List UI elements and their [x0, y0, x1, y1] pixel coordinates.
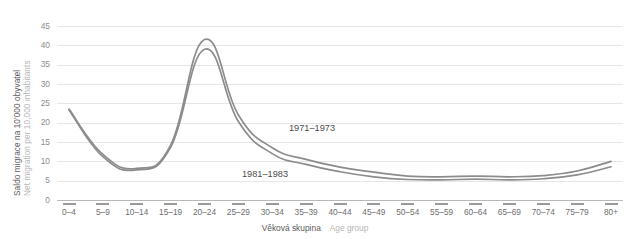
x-tick-dash — [96, 203, 109, 205]
y-tick-label: 5 — [24, 176, 50, 184]
line-chart: Saldo migrace na 10'000 obyvatel Net mig… — [0, 0, 630, 239]
x-tick-dash — [503, 203, 516, 205]
y-axis-tick-labels: 051015202530354045 — [24, 0, 50, 239]
x-tick-dash — [266, 203, 279, 205]
x-axis-title-cz: Věková skupina — [262, 223, 321, 233]
x-tick-dash — [367, 203, 380, 205]
x-tick-dash — [537, 203, 550, 205]
x-tick-dash — [198, 203, 211, 205]
x-axis-line — [57, 200, 623, 201]
y-tick-label: 10 — [24, 157, 50, 165]
x-tick-dash — [63, 203, 76, 205]
series-line-2 — [69, 49, 611, 180]
y-tick-label: 45 — [24, 22, 50, 30]
x-tick-dash — [469, 203, 482, 205]
y-tick-label: 40 — [24, 41, 50, 49]
x-tick-dash — [571, 203, 584, 205]
x-tick-dash — [232, 203, 245, 205]
y-tick-label: 20 — [24, 118, 50, 126]
x-tick-dash — [401, 203, 414, 205]
series-annotation-1981-1983: 1981–1983 — [242, 170, 288, 179]
y-axis-title-cz: Saldo migrace na 10'000 obyvatel — [14, 70, 22, 196]
x-tick-dash — [435, 203, 448, 205]
x-axis-tick-labels: 0–45–910–1415–1920–2425–2930–3435–3940–4… — [57, 203, 623, 225]
series-annotation-1971-1973: 1971–1973 — [289, 124, 335, 133]
y-tick-label: 35 — [24, 60, 50, 68]
x-axis-title: Věková skupina Age group — [0, 224, 630, 232]
y-tick-label: 25 — [24, 99, 50, 107]
x-tick-dash — [334, 203, 347, 205]
x-tick-label: 80+ — [591, 203, 630, 216]
plot-area — [57, 26, 623, 200]
x-tick-dash — [300, 203, 313, 205]
series-line-1 — [69, 39, 611, 177]
x-tick-text: 80+ — [591, 208, 630, 216]
x-tick-dash — [130, 203, 143, 205]
y-tick-label: 0 — [24, 196, 50, 204]
x-tick-dash — [605, 203, 618, 205]
y-tick-label: 15 — [24, 138, 50, 146]
y-tick-label: 30 — [24, 80, 50, 88]
x-tick-dash — [164, 203, 177, 205]
series-lines — [57, 26, 623, 200]
x-axis-title-en: Age group — [330, 223, 369, 233]
